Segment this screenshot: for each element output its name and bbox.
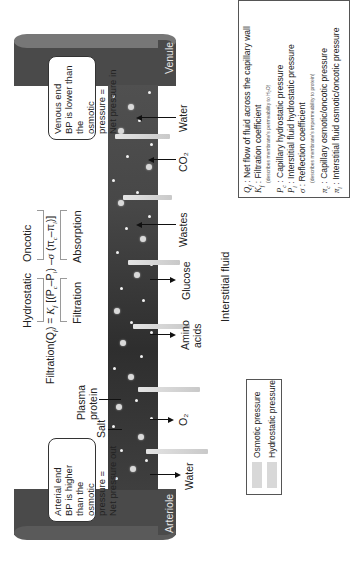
hydrostatic-swatch: [267, 462, 277, 488]
osmotic-swatch: [252, 462, 262, 488]
filtration-label: Filtration: [72, 282, 83, 324]
arteriole-end-cap: [14, 526, 176, 540]
absorption-label: Absorption: [72, 210, 83, 263]
pressure-legend: Osmotic pressure Hydrostatic pressure: [246, 379, 282, 495]
arteriole-label: Arteriole: [163, 494, 175, 533]
pressure-bar: [128, 260, 180, 265]
hydrostatic-legend-label: Hydrostatic pressure: [267, 380, 277, 458]
interstitial-fluid-label: Interstitial fluid: [220, 252, 231, 322]
osmotic-legend-label: Osmotic pressure: [252, 391, 262, 458]
hydrostatic-header: Hydrostatic: [22, 273, 33, 328]
venule-end-cap: [14, 34, 176, 48]
oncotic-header: Oncotic: [22, 225, 33, 262]
filtration-equation: Filtration(Qf) = Kf [(Pc–Pi) –σ (πc–πi)]: [45, 216, 61, 384]
pressure-bar: [115, 134, 170, 139]
oncotic-bracket: [37, 210, 44, 260]
venous-end-info-box: Venous end BP is lower than the osmotic …: [48, 56, 96, 140]
legend-pii: πi : Interstitial fluid osmotic/oncotic …: [331, 27, 345, 193]
capillary-exchange-diagram: Hydrostatic Oncotic Filtration(Qf) = Kf …: [0, 0, 352, 580]
legend-kf-note: (describes membrane's permeability to H₂…: [265, 85, 272, 183]
filtration-bracket: [60, 278, 67, 322]
legend-sigma: σ : Reflection coefficient: [297, 102, 307, 193]
venule-label: Venule: [163, 42, 175, 74]
hydrostatic-bracket: [37, 278, 44, 322]
symbol-legend: Qf : Net flow of fluid across the capill…: [238, 0, 350, 198]
pressure-bar: [138, 387, 200, 392]
pressure-bar: [146, 449, 208, 454]
pressure-bar: [123, 195, 172, 200]
arterial-end-info-box: Arterial end BP is higher than the osmot…: [48, 438, 96, 522]
legend-sigma-note: (describes membrane's impermeability to …: [309, 74, 316, 183]
absorption-bracket: [60, 210, 67, 260]
